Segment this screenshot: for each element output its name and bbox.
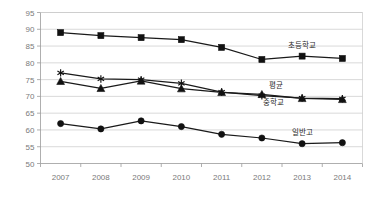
series-label: 평균 [269,80,283,90]
series-label: 일반고 [292,128,313,137]
data-point-marker [219,131,225,137]
y-axis-tick-label: 95 [26,9,35,18]
x-axis-tick-label: 2013 [293,173,311,182]
chart-container: 50556065707580859095 2007200820092010201… [0,0,375,197]
y-axis-tick-label: 90 [26,25,35,34]
data-point-marker [339,55,345,61]
data-point-marker [339,140,345,146]
data-point-marker [219,44,225,50]
x-axis-tick-label: 2008 [92,173,110,182]
x-axis-tick-labels: 20072008200920102011201220132014 [52,173,352,182]
y-axis-tick-label: 55 [26,143,35,152]
x-axis-tick-label: 2009 [132,173,150,182]
gridlines [41,13,363,147]
x-axis-tick-label: 2012 [253,173,271,182]
data-point-marker [259,135,265,141]
series-label: 초등학교 [288,40,316,50]
data-point-marker [98,126,104,132]
data-point-marker [299,141,305,147]
x-axis-tick-label: 2011 [213,173,231,182]
x-axis-tick-marks [41,164,363,168]
x-axis-tick-label: 2007 [52,173,70,182]
y-axis-tick-marks [37,13,41,164]
y-axis-tick-label: 70 [26,92,35,101]
data-point-marker [138,118,144,124]
y-axis-tick-label: 75 [26,76,35,85]
data-point-marker [178,123,184,129]
y-axis-tick-label: 60 [26,126,35,135]
series-label: 중학교 [263,97,284,107]
x-axis-tick-label: 2014 [333,173,351,182]
data-point-marker [57,77,65,84]
series-inline-labels: 초등학교평균중학교일반고 [263,40,316,137]
data-point-marker [138,35,144,41]
data-point-marker [98,33,104,39]
line-chart: 50556065707580859095 2007200820092010201… [0,0,375,197]
data-point-marker [259,56,265,62]
y-axis-tick-label: 50 [26,160,35,169]
data-point-marker [299,53,305,59]
data-point-marker [58,30,64,36]
y-axis-tick-label: 85 [26,42,35,51]
data-point-marker [178,37,184,43]
series-line [61,73,343,99]
y-axis-tick-labels: 50556065707580859095 [26,9,35,169]
data-point-marker [58,120,64,126]
x-axis-tick-label: 2010 [172,173,190,182]
y-axis-tick-label: 65 [26,109,35,118]
y-axis-tick-label: 80 [26,59,35,68]
